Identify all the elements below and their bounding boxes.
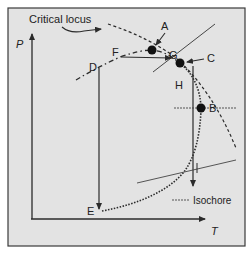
label-b: B xyxy=(209,102,216,114)
y-axis-label: P xyxy=(16,38,24,50)
legend-isochore-label: Isochore xyxy=(193,195,232,206)
diagram-frame xyxy=(8,8,245,246)
point-b-dot xyxy=(197,104,206,113)
label-g: G xyxy=(169,49,178,61)
phase-diagram: P T Critical locus A C G F D E H B Isoch… xyxy=(0,0,252,254)
critical-locus-label: Critical locus xyxy=(29,13,92,25)
label-h: H xyxy=(175,79,183,91)
label-a: A xyxy=(161,20,169,32)
label-e: E xyxy=(87,205,94,217)
label-f: F xyxy=(112,46,119,58)
label-d: D xyxy=(89,61,97,73)
point-a-dot xyxy=(148,46,157,55)
label-c: C xyxy=(207,52,215,64)
